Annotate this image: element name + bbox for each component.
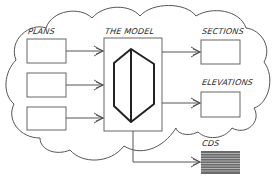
elevations-label: ELEVATIONS [201, 78, 253, 87]
plans-box-1 [27, 39, 66, 63]
plans-box-3 [27, 107, 66, 130]
plans-label: PLANS [27, 27, 55, 36]
arrow-model-to-elevations [162, 98, 201, 108]
cds-label: CDS [201, 139, 220, 148]
arrow-plans-1-to-model [66, 46, 104, 56]
plans-box-2 [27, 73, 66, 97]
arrow-plans-2-to-model [66, 80, 104, 90]
arrow-plans-3-to-model [66, 113, 104, 123]
sections-label: SECTIONS [201, 27, 244, 36]
elevations-box [201, 92, 240, 117]
arrow-model-to-sections [162, 47, 201, 57]
cds-stack [201, 151, 240, 174]
model-label: THE MODEL [104, 27, 154, 36]
sections-box [201, 40, 240, 64]
arrow-model-to-cds [133, 131, 201, 167]
